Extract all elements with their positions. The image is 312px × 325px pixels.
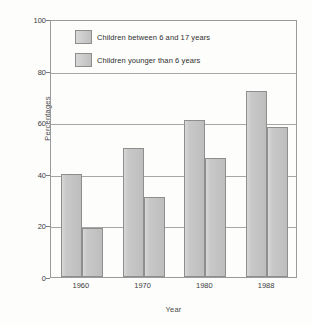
legend: Children between 6 and 17 years Children… <box>75 27 275 73</box>
y-tick-label: 0 <box>20 274 46 283</box>
y-tick-label: 40 <box>20 170 46 179</box>
x-tick-label: 1960 <box>73 281 90 290</box>
x-tick-label: 1988 <box>258 281 275 290</box>
x-axis-ticks: 1960197019801988 <box>50 281 297 295</box>
legend-label: Children younger than 6 years <box>97 56 200 65</box>
x-axis-label: Year <box>50 305 297 314</box>
legend-item: Children younger than 6 years <box>75 50 275 70</box>
legend-swatch-icon <box>75 53 92 67</box>
bar <box>144 197 165 277</box>
bar <box>82 228 103 277</box>
bar <box>246 91 267 277</box>
bar <box>61 174 82 277</box>
y-tick-mark <box>46 278 50 279</box>
y-tick-label: 80 <box>20 67 46 76</box>
y-tick-label: 20 <box>20 222 46 231</box>
y-tick-label: 100 <box>20 16 46 25</box>
x-tick-label: 1970 <box>134 281 151 290</box>
bar <box>123 148 144 277</box>
plot-area: Children between 6 and 17 years Children… <box>50 20 297 278</box>
y-tick-label: 60 <box>20 119 46 128</box>
bar-chart-figure: Percentages 020406080100 Children betwee… <box>0 0 312 325</box>
legend-swatch-icon <box>75 30 92 44</box>
bar <box>205 158 226 277</box>
bar <box>184 120 205 277</box>
legend-label: Children between 6 and 17 years <box>97 33 210 42</box>
bar <box>267 127 288 277</box>
legend-item: Children between 6 and 17 years <box>75 27 275 47</box>
x-tick-label: 1980 <box>196 281 213 290</box>
y-axis-ticks: 020406080100 <box>0 20 46 278</box>
